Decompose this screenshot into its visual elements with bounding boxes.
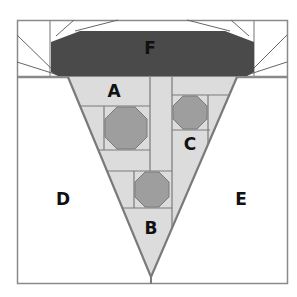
label-f: F: [144, 38, 156, 58]
label-b: B: [145, 218, 158, 238]
octagon-c: [173, 96, 207, 129]
label-c: C: [184, 134, 196, 154]
label-d: D: [56, 189, 70, 209]
octagon-b: [135, 172, 169, 207]
label-e: E: [235, 189, 247, 209]
label-a: A: [107, 81, 121, 101]
octagon-a: [105, 107, 147, 149]
quilt-diagram: F A C B D E: [0, 0, 297, 297]
